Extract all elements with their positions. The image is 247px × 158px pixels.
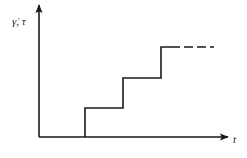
x-axis-label: t bbox=[233, 133, 237, 145]
step-diagram: γ̇, τ t bbox=[0, 0, 247, 158]
step-curve bbox=[85, 47, 171, 137]
y-axis-label: γ̇, τ bbox=[12, 15, 27, 27]
